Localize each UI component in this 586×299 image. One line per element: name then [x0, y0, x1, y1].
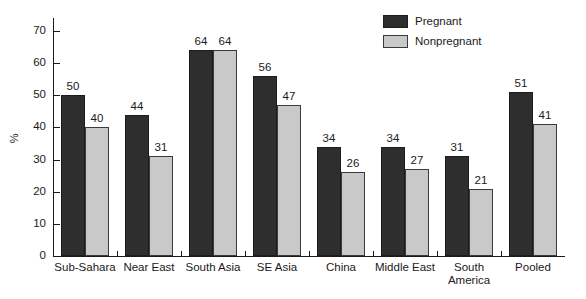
bar-value-label: 31: [147, 141, 175, 153]
bar-value-label: 44: [123, 100, 151, 112]
bar-value-label: 31: [443, 141, 471, 153]
bar-value-label: 26: [339, 157, 367, 169]
bar-south-asia-pregnant: [189, 50, 213, 256]
bar-value-label: 41: [531, 109, 559, 121]
y-tick-40: [54, 127, 60, 128]
y-axis-line: [53, 18, 54, 257]
y-tick-0: [54, 256, 60, 257]
bar-near-east-nonpregnant: [149, 156, 173, 256]
bar-se-asia-nonpregnant: [277, 105, 301, 256]
chart-legend: Pregnant Nonpregnant: [383, 13, 482, 53]
bar-sub-sahara-nonpregnant: [85, 127, 109, 256]
y-tick-label-70: 70: [0, 25, 46, 36]
y-tick-50: [54, 95, 60, 96]
category-label-pooled: Pooled: [488, 261, 578, 274]
legend-swatch-pregnant-icon: [383, 15, 408, 28]
y-tick-10: [54, 224, 60, 225]
x-group-tick-3: [245, 251, 246, 257]
bar-china-nonpregnant: [341, 172, 365, 256]
bar-value-label: 21: [467, 174, 495, 186]
bar-south-america-nonpregnant: [469, 189, 493, 257]
bar-value-label: 64: [211, 35, 239, 47]
legend-label-nonpregnant: Nonpregnant: [415, 35, 482, 48]
y-tick-20: [54, 192, 60, 193]
x-group-tick-7: [501, 251, 502, 257]
bar-value-label: 47: [275, 90, 303, 102]
bar-value-label: 40: [83, 112, 111, 124]
y-tick-label-50: 50: [0, 89, 46, 100]
bar-middle-east-nonpregnant: [405, 169, 429, 256]
bar-south-america-pregnant: [445, 156, 469, 256]
bar-middle-east-pregnant: [381, 147, 405, 256]
y-tick-70: [54, 31, 60, 32]
x-group-tick-1: [117, 251, 118, 257]
legend-swatch-nonpregnant-icon: [383, 35, 408, 48]
bar-china-pregnant: [317, 147, 341, 256]
x-group-tick-5: [373, 251, 374, 257]
bar-se-asia-pregnant: [253, 76, 277, 256]
y-tick-label-30: 30: [0, 154, 46, 165]
bar-value-label: 50: [59, 80, 87, 92]
bar-value-label: 56: [251, 61, 279, 73]
y-tick-label-40: 40: [0, 121, 46, 132]
bar-value-label: 27: [403, 154, 431, 166]
bar-chart: % 706050403020100 5040443164645647342634…: [0, 0, 586, 299]
y-tick-label-60: 60: [0, 57, 46, 68]
bar-near-east-pregnant: [125, 115, 149, 256]
bar-value-label: 34: [379, 132, 407, 144]
y-tick-label-20: 20: [0, 186, 46, 197]
y-tick-30: [54, 160, 60, 161]
legend-item-pregnant: Pregnant: [383, 13, 482, 30]
y-tick-label-10: 10: [0, 218, 46, 229]
bar-value-label: 34: [315, 132, 343, 144]
bar-value-label: 51: [507, 77, 535, 89]
x-group-tick-4: [309, 251, 310, 257]
bar-pooled-nonpregnant: [533, 124, 557, 256]
x-group-tick-6: [437, 251, 438, 257]
bar-south-asia-nonpregnant: [213, 50, 237, 256]
y-tick-60: [54, 63, 60, 64]
x-group-tick-2: [181, 251, 182, 257]
bar-pooled-pregnant: [509, 92, 533, 256]
bar-sub-sahara-pregnant: [61, 95, 85, 256]
legend-label-pregnant: Pregnant: [415, 15, 462, 28]
y-tick-label-0: 0: [0, 250, 46, 261]
legend-item-nonpregnant: Nonpregnant: [383, 33, 482, 50]
